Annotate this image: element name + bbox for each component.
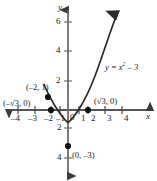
point-vertex <box>65 143 71 149</box>
equation-prefix: y = x <box>105 62 123 72</box>
x-tick-label-4: 4 <box>124 114 129 123</box>
x-tick-label--4: –4 <box>11 114 20 123</box>
y-tick-label-4: 4 <box>56 46 61 55</box>
x-tick-label-0: 0 <box>70 113 75 122</box>
x-tick-label--3: –3 <box>28 114 37 123</box>
point-label-neg2-1: (–2, 1) <box>26 83 49 92</box>
x-tick-label--2: –2 <box>44 114 53 123</box>
point-neg2-1 <box>45 94 51 100</box>
point-label-left-root: (–√3, 0) <box>3 99 30 108</box>
parabola-graph-figure: y x –4 –3 –2 –1 0 1 2 3 4 6 4 2 2 4 (–2,… <box>0 0 157 181</box>
equation-annotation: y = x2 – 3 <box>105 63 138 72</box>
point-label-vertex: (0, –3) <box>72 151 95 160</box>
y-tick-label--2: 2 <box>57 123 62 132</box>
y-tick-label-2: 2 <box>56 76 61 85</box>
y-axis-label: y <box>58 3 62 12</box>
x-axis-label: x <box>146 112 150 121</box>
x-tick-label-1: 1 <box>81 114 86 123</box>
x-tick-label-3: 3 <box>107 114 112 123</box>
x-tick-label-2: 2 <box>91 114 96 123</box>
y-tick-label-6: 6 <box>56 17 61 26</box>
equation-suffix: – 3 <box>125 62 138 72</box>
y-tick-label--4: 4 <box>57 153 62 162</box>
point-label-right-root: (√3, 0) <box>94 97 117 106</box>
